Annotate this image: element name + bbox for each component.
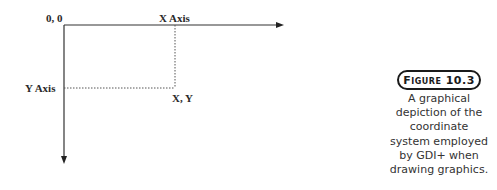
- origin-label: 0, 0: [46, 12, 63, 24]
- figure-caption: A graphical depiction of the coordinate …: [389, 92, 489, 177]
- figure-number-badge: Figure 10.3: [397, 70, 481, 90]
- point-label: X, Y: [172, 92, 193, 104]
- y-axis-label: Y Axis: [25, 82, 55, 94]
- x-axis-arrow-icon: [276, 22, 284, 28]
- x-axis-label: X Axis: [159, 12, 190, 24]
- y-axis-arrow-icon: [61, 156, 67, 164]
